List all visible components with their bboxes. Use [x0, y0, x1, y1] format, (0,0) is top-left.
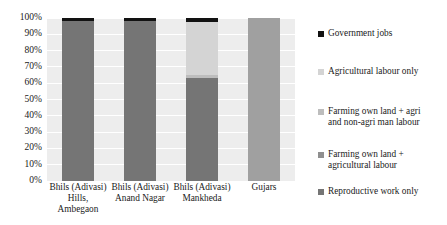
y-axis-tick-label: 40%: [25, 111, 42, 121]
y-axis-tick-label: 20%: [25, 143, 42, 153]
y-axis-tick-label: 100%: [20, 13, 42, 23]
bar-group[interactable]: [124, 18, 156, 181]
bar-segment[interactable]: [62, 21, 94, 181]
chart-root: 100%90%80%70%60%50%40%30%20%10%0% Bhils …: [0, 0, 447, 225]
bar-segment[interactable]: [186, 22, 218, 74]
bar-group[interactable]: [62, 18, 94, 181]
legend-swatch-icon: [318, 109, 324, 115]
legend-item[interactable]: Government jobs: [318, 28, 392, 39]
chart-legend: Government jobsAgricultural labour onlyF…: [318, 18, 447, 208]
legend-label: Farming own land + agri and non-agri man…: [328, 106, 421, 127]
legend-swatch-icon: [318, 189, 324, 195]
x-axis-label-line: Gujars: [227, 182, 301, 193]
legend-swatch-icon: [318, 69, 324, 75]
legend-item[interactable]: Farming own land + agri and non-agri man…: [318, 106, 421, 127]
y-axis-tick-label: 50%: [25, 95, 42, 105]
legend-label: Government jobs: [328, 28, 392, 39]
y-axis: 100%90%80%70%60%50%40%30%20%10%0%: [0, 12, 46, 184]
x-axis-label-line: Ambegaon: [41, 204, 115, 215]
plot-area: [47, 18, 295, 181]
bar-group[interactable]: [248, 18, 280, 181]
legend-label: Agricultural labour only: [328, 66, 418, 77]
x-axis-category-label: Gujars: [227, 182, 301, 193]
legend-item[interactable]: Farming own land + agricultural labour: [318, 149, 404, 170]
legend-label: Farming own land + agricultural labour: [328, 149, 404, 170]
legend-swatch-icon: [318, 31, 324, 37]
bar-segment[interactable]: [124, 21, 156, 181]
x-axis-label-line: Mankheda: [165, 193, 239, 204]
legend-label: Reproductive work only: [328, 186, 418, 197]
y-axis-tick-label: 30%: [25, 127, 42, 137]
bar-segment[interactable]: [186, 78, 218, 181]
bar-segment[interactable]: [248, 18, 280, 181]
legend-item[interactable]: Reproductive work only: [318, 186, 418, 197]
legend-item[interactable]: Agricultural labour only: [318, 66, 418, 77]
y-axis-tick-label: 80%: [25, 46, 42, 56]
y-axis-tick-label: 90%: [25, 29, 42, 39]
x-axis-labels: Bhils (Adivasi)Hills,AmbegaonBhils (Adiv…: [47, 182, 295, 225]
y-axis-tick-label: 10%: [25, 160, 42, 170]
y-axis-tick-label: 70%: [25, 62, 42, 72]
bar-group[interactable]: [186, 18, 218, 181]
legend-swatch-icon: [318, 152, 324, 158]
y-axis-tick-label: 60%: [25, 78, 42, 88]
